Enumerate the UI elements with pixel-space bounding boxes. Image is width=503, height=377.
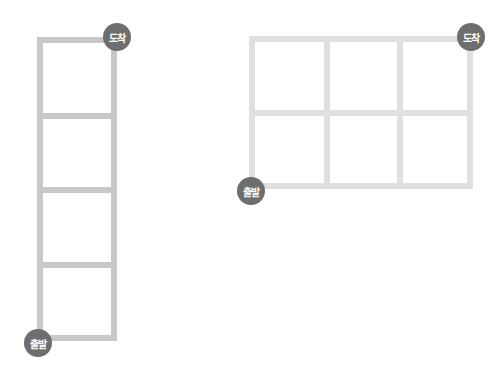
left-grid-row-divider-3: [37, 262, 117, 268]
left-grid-row-divider-1: [37, 113, 117, 119]
left-end-badge: 도착: [103, 23, 131, 51]
right-grid-top-line: [249, 36, 473, 42]
right-end-badge: 도착: [457, 23, 485, 51]
left-grid-row-divider-2: [37, 187, 117, 193]
right-grid-bottom-line: [249, 183, 473, 189]
right-grid-row-divider-1: [249, 110, 473, 116]
right-start-badge: 출발: [237, 177, 265, 205]
left-start-badge: 출발: [24, 329, 52, 357]
